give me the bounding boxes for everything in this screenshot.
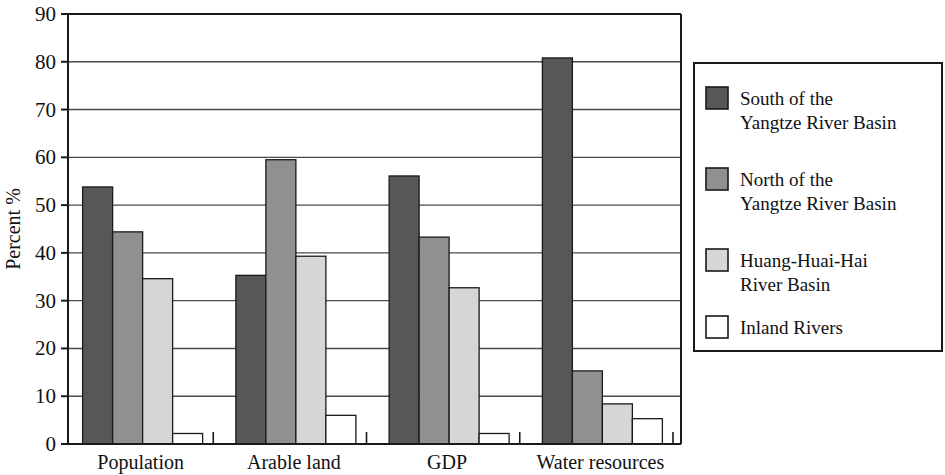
y-axis-title: Percent %: [2, 188, 24, 270]
bar: [632, 419, 662, 444]
chart-canvas: 0102030405060708090 PopulationArable lan…: [0, 0, 945, 475]
bar: [449, 288, 479, 444]
bar: [602, 404, 632, 444]
x-axis-category-label: Population: [97, 451, 184, 474]
bar: [572, 371, 602, 444]
y-axis-tick-label: 70: [35, 98, 56, 122]
legend-swatch: [706, 168, 728, 190]
bar: [326, 415, 356, 444]
x-axis-category-label: GDP: [427, 451, 467, 473]
y-axis-tick-label: 80: [35, 50, 56, 74]
bar: [266, 160, 296, 444]
legend-swatch: [706, 87, 728, 109]
legend-label: Yangtze River Basin: [740, 112, 897, 133]
x-axis-category-label: Water resources: [536, 451, 664, 473]
x-axis-category-label: Arable land: [247, 451, 341, 473]
bar: [236, 275, 266, 444]
bar-chart: 0102030405060708090 PopulationArable lan…: [0, 0, 945, 475]
bar: [479, 433, 509, 444]
legend-label: Huang-Huai-Hai: [740, 250, 868, 271]
bar: [83, 187, 113, 444]
y-axis-tick-label: 10: [35, 384, 56, 408]
legend-swatch: [706, 316, 728, 338]
legend-label: Yangtze River Basin: [740, 193, 897, 214]
y-axis-tick-labels: 0102030405060708090: [35, 2, 56, 456]
legend-label: River Basin: [740, 274, 831, 295]
legend-label: South of the: [740, 88, 833, 109]
bar: [542, 58, 572, 444]
bar: [419, 237, 449, 444]
bar: [113, 232, 143, 444]
y-axis-tick-label: 90: [35, 2, 56, 26]
y-axis-tick-label: 20: [35, 336, 56, 360]
y-axis-title-text: Percent %: [2, 188, 24, 270]
y-axis-tick-label: 60: [35, 145, 56, 169]
y-axis-tick-label: 50: [35, 193, 56, 217]
bar: [143, 279, 173, 444]
y-axis-tick-label: 40: [35, 241, 56, 265]
bar: [296, 256, 326, 444]
legend-label: Inland Rivers: [740, 317, 843, 338]
x-axis-category-labels: PopulationArable landGDPWater resources: [97, 451, 664, 474]
bar: [389, 176, 419, 444]
y-axis-tick-label: 0: [46, 432, 57, 456]
legend-label: North of the: [740, 169, 833, 190]
y-axis-tick-label: 30: [35, 289, 56, 313]
bars-group: [83, 58, 663, 444]
chart-legend: South of theYangtze River BasinNorth of …: [694, 63, 942, 351]
legend-swatch: [706, 249, 728, 271]
bar: [173, 433, 203, 444]
